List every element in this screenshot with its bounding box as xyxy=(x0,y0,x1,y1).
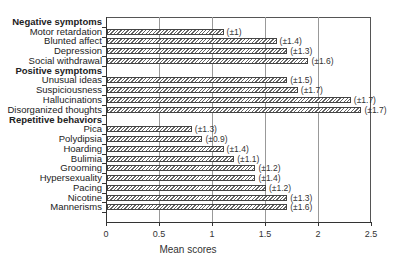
x-tick-label: 0.5 xyxy=(144,229,174,239)
sd-label: (±1.6) xyxy=(311,56,333,66)
sd-label: (±1.1) xyxy=(237,154,259,164)
y-tick xyxy=(102,144,106,145)
bar xyxy=(107,136,202,142)
bar xyxy=(107,48,287,54)
y-tick xyxy=(102,66,106,67)
y-tick xyxy=(102,212,106,213)
sd-label: (±1.3) xyxy=(290,193,312,203)
sd-label: (±1.4) xyxy=(227,144,249,154)
y-tick xyxy=(102,202,106,203)
y-tick xyxy=(102,46,106,47)
bar xyxy=(107,146,224,152)
y-tick xyxy=(102,154,106,155)
y-tick xyxy=(102,183,106,184)
sd-label: (±1) xyxy=(227,27,242,37)
x-tick xyxy=(371,222,372,226)
y-tick xyxy=(102,193,106,194)
x-tick-label: 1.5 xyxy=(250,229,280,239)
x-tick-label: 2.5 xyxy=(356,229,386,239)
sd-label: (±1.4) xyxy=(280,36,302,46)
bar xyxy=(107,156,234,162)
bar xyxy=(107,77,287,83)
sd-label: (±1.7) xyxy=(364,105,386,115)
x-tick-label: 1 xyxy=(197,229,227,239)
bar xyxy=(107,29,224,35)
sd-label: (±0.9) xyxy=(205,134,227,144)
x-tick xyxy=(265,222,266,226)
sd-label: (±1.7) xyxy=(354,95,376,105)
y-tick xyxy=(102,76,106,77)
bar xyxy=(107,195,287,201)
bar xyxy=(107,175,255,181)
x-tick xyxy=(106,222,107,226)
x-tick xyxy=(212,222,213,226)
category-label: Mannerisms xyxy=(50,202,102,212)
y-tick xyxy=(102,115,106,116)
x-tick-label: 2 xyxy=(303,229,333,239)
bar xyxy=(107,126,192,132)
horizontal-bar-chart: 00.511.522.5 Negative symptomsMotor reta… xyxy=(0,0,400,263)
x-tick xyxy=(318,222,319,226)
y-tick xyxy=(102,27,106,28)
bar xyxy=(107,185,266,191)
bar xyxy=(107,58,308,64)
sd-label: (±1.3) xyxy=(195,124,217,134)
sd-label: (±1.4) xyxy=(258,173,280,183)
y-tick xyxy=(102,163,106,164)
bar xyxy=(107,107,361,113)
sd-label: (±1.2) xyxy=(258,163,280,173)
bar xyxy=(107,38,277,44)
sd-label: (±1.5) xyxy=(290,75,312,85)
sd-label: (±1.7) xyxy=(301,85,323,95)
y-tick xyxy=(102,85,106,86)
sd-label: (±1.2) xyxy=(269,183,291,193)
y-tick xyxy=(102,95,106,96)
y-tick xyxy=(102,173,106,174)
x-axis-label: Mean scores xyxy=(138,244,238,255)
bar xyxy=(107,165,255,171)
x-axis xyxy=(106,222,372,223)
sd-label: (±1.6) xyxy=(290,202,312,212)
y-tick xyxy=(102,37,106,38)
bar xyxy=(107,204,287,210)
y-tick xyxy=(102,56,106,57)
bar xyxy=(107,87,298,93)
x-tick-label: 0 xyxy=(91,229,121,239)
x-tick xyxy=(159,222,160,226)
y-tick xyxy=(102,134,106,135)
bar xyxy=(107,97,351,103)
sd-label: (±1.3) xyxy=(290,46,312,56)
y-tick xyxy=(102,105,106,106)
y-tick xyxy=(102,124,106,125)
gridline xyxy=(318,17,319,222)
